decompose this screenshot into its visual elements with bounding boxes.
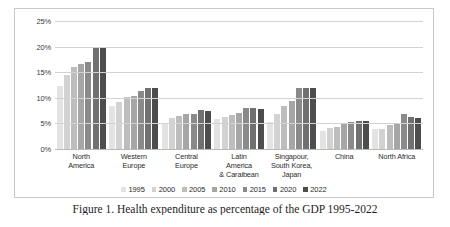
bar [341,124,347,149]
category-label-line: & Caraibean [214,170,265,179]
category-label-line: America [56,161,107,170]
bar-groups [55,21,423,149]
bar [401,114,407,149]
bar [71,67,77,149]
bar [191,114,197,149]
category-label-line: Europe [109,161,160,170]
y-axis-tick-label: 0% [41,145,51,154]
y-axis-tick-label: 15% [37,68,51,77]
bar [162,123,168,149]
bar [64,75,70,149]
legend-item[interactable]: 2015 [243,185,266,194]
bar [356,121,362,149]
legend-swatch-icon [243,187,248,192]
bar [408,117,414,149]
bar [348,122,354,149]
bar [116,102,122,149]
bar [267,122,273,149]
bar [205,111,211,149]
legend-label: 2015 [250,185,266,194]
axis-baseline [55,149,423,150]
category-label-line: Japan [266,170,317,179]
bar [334,127,340,149]
gridline [55,21,423,22]
legend-label: 2005 [189,185,205,194]
bar [363,121,369,149]
category-label-line: North Africa [371,152,422,161]
legend-swatch-icon [273,187,278,192]
legend-swatch-icon [212,187,217,192]
figure-caption: Figure 1. Health expenditure as percenta… [14,203,436,215]
bar [303,88,309,149]
legend-label: 1995 [128,185,144,194]
bar [394,123,400,149]
bar [243,108,249,149]
y-axis: 25%20%15%10%5%0% [21,21,51,149]
x-axis-category-label: North Africa [370,152,423,180]
legend-item[interactable]: 2005 [182,185,205,194]
legend-label: 2000 [159,185,175,194]
legend-item[interactable]: 2020 [273,185,296,194]
category-label-line: Western [109,152,160,161]
bar [379,129,385,149]
y-axis-tick-label: 5% [41,119,51,128]
x-axis-category-label: WesternEurope [108,152,161,180]
legend-item[interactable]: 2022 [303,185,326,194]
category-label-line: Europe [161,161,212,170]
bar-group [265,21,318,149]
category-label-line: America [214,161,265,170]
category-label-line: Central [161,152,212,161]
legend-label: 2010 [219,185,235,194]
bar [85,62,91,149]
bar-group [108,21,161,149]
gridline [55,47,423,48]
bar-group [318,21,371,149]
bar [78,64,84,149]
bar [310,88,316,149]
plot-area [55,21,423,149]
legend-swatch-icon [182,187,187,192]
category-label-line: Singapour, [266,152,317,161]
x-axis-category-label: LatinAmerica& Caraibean [213,152,266,180]
x-axis-category-label: Singapour,South Korea,Japan [265,152,318,180]
bar [320,131,326,149]
bar-group [160,21,213,149]
bar [57,86,63,149]
bar [327,128,333,149]
bar [258,109,264,149]
bar-group [55,21,108,149]
chart-container: 25%20%15%10%5%0% NorthAmericaWesternEuro… [14,8,434,198]
x-axis-category-labels: NorthAmericaWesternEuropeCentralEuropeLa… [55,152,423,180]
legend-swatch-icon [303,187,308,192]
legend-label: 2020 [280,185,296,194]
category-label-line: North [56,152,107,161]
gridline [55,123,423,124]
y-axis-tick-label: 10% [37,93,51,102]
legend-item[interactable]: 2010 [212,185,235,194]
bar [183,114,189,149]
bar [387,125,393,149]
bar [250,108,256,149]
chart-legend: 1995200020052010201520202022 [15,185,433,194]
y-axis-tick-label: 25% [37,17,51,26]
category-label-line: China [319,152,370,161]
screenshot-root: 25%20%15%10%5%0% NorthAmericaWesternEuro… [0,0,450,227]
category-label-line: Latin [214,152,265,161]
bar [274,114,280,149]
legend-item[interactable]: 2000 [152,185,175,194]
gridline [55,72,423,73]
bar [289,101,295,149]
bar [236,113,242,149]
bar [372,129,378,149]
bar [198,110,204,149]
bar [222,117,228,149]
y-axis-tick-label: 20% [37,42,51,51]
bar [109,106,115,149]
legend-label: 2022 [310,185,326,194]
legend-item[interactable]: 1995 [121,185,144,194]
gridline [55,98,423,99]
bar [296,88,302,149]
bar-group [213,21,266,149]
bar [176,116,182,149]
x-axis-category-label: NorthAmerica [55,152,108,180]
